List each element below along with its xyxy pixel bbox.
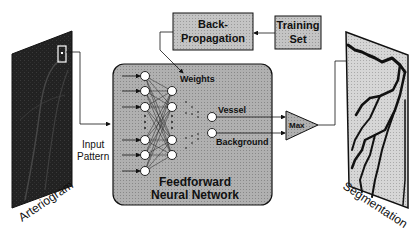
backprop-label-1: Back- [198,18,228,30]
vessel-node [208,113,217,122]
backprop-label-2: Propagation [181,32,245,44]
vessel-label: Vessel [218,105,246,115]
weights-label: Weights [180,74,215,84]
max-label: Max [289,121,305,130]
segmentation-image [346,32,408,208]
input-label-1: Input [82,139,104,150]
training-label-1: Training [277,19,320,31]
training-label-2: Set [289,33,306,45]
input-label-2: Pattern [77,151,109,162]
input-connector [66,52,110,124]
network-title-2: Neural Network [151,188,239,202]
diagram-canvas: Arteriogram Input Pattern [0,0,418,232]
network-title-1: Feedforward [159,175,231,189]
background-label: Background [216,137,269,147]
